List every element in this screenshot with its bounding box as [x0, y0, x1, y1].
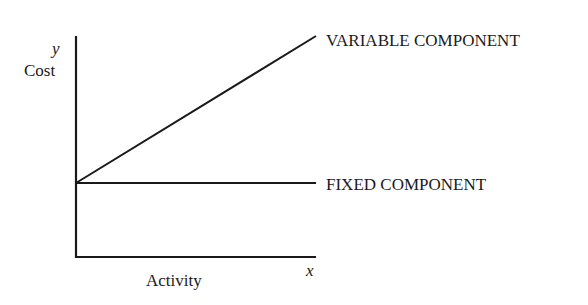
y-axis-symbol: y [52, 40, 60, 57]
variable-component-line [76, 36, 316, 183]
y-axis-title: Cost [24, 62, 55, 79]
x-axis-title: Activity [146, 272, 202, 289]
fixed-component-label: FIXED COMPONENT [326, 176, 486, 193]
x-axis-symbol: x [306, 262, 314, 279]
variable-component-label: VARIABLE COMPONENT [326, 32, 520, 49]
